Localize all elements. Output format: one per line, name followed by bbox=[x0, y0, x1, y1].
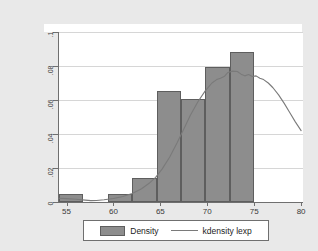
legend-item-kdensity: kdensity lexp bbox=[171, 226, 252, 236]
legend-label-density: Density bbox=[130, 226, 158, 236]
kdensity-polyline bbox=[59, 71, 301, 201]
chart-legend: Density kdensity lexp bbox=[83, 220, 269, 241]
y-tick-label: .08 bbox=[48, 66, 55, 76]
legend-item-density: Density bbox=[100, 226, 158, 236]
x-tick-label: 75 bbox=[250, 207, 259, 216]
x-tick bbox=[67, 202, 68, 206]
x-tick bbox=[207, 202, 208, 206]
x-tick-label: 80 bbox=[297, 207, 306, 216]
y-tick-label: .02 bbox=[48, 168, 55, 178]
y-tick-label: .1 bbox=[48, 32, 55, 38]
density-swatch-icon bbox=[100, 226, 125, 236]
plot-top-margin bbox=[44, 24, 302, 32]
x-tick-label: 65 bbox=[156, 207, 165, 216]
y-tick-label: .04 bbox=[48, 134, 55, 144]
chart-figure: 0.02.04.06.08.1 556065707580 Density kde… bbox=[0, 0, 318, 251]
kdensity-curve bbox=[59, 32, 303, 202]
x-tick bbox=[301, 202, 302, 206]
x-tick-label: 55 bbox=[62, 207, 71, 216]
x-tick bbox=[113, 202, 114, 206]
plot-region: 0.02.04.06.08.1 556065707580 bbox=[58, 32, 303, 203]
x-tick-label: 70 bbox=[203, 207, 212, 216]
graph-canvas: 0.02.04.06.08.1 556065707580 Density kde… bbox=[14, 10, 302, 238]
y-tick-label: .06 bbox=[48, 100, 55, 110]
x-axis: 556065707580 bbox=[59, 202, 303, 220]
legend-label-kdensity: kdensity lexp bbox=[203, 226, 252, 236]
x-tick bbox=[254, 202, 255, 206]
x-tick bbox=[160, 202, 161, 206]
x-tick-label: 60 bbox=[109, 207, 118, 216]
y-tick-label: 0 bbox=[48, 202, 55, 206]
kdensity-line-icon bbox=[171, 230, 198, 231]
